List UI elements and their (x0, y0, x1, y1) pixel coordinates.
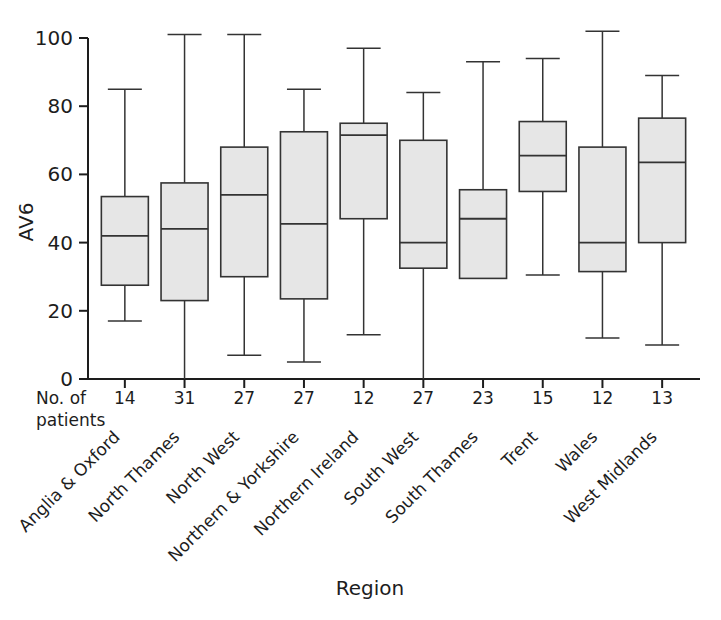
box-plot-item (280, 89, 327, 362)
patient-count-value: 14 (114, 388, 136, 408)
x-axis (88, 379, 700, 388)
box-plot-item (460, 62, 507, 279)
box-plot-item (340, 48, 387, 334)
y-axis-title: AV6 (14, 203, 38, 242)
box-plot-figure: 020406080100AV6No. ofpatients14312727122… (0, 0, 721, 620)
interquartile-box (460, 190, 507, 279)
interquartile-box (161, 183, 208, 301)
chart-canvas: 020406080100AV6No. ofpatients14312727122… (0, 0, 721, 620)
box-plot-item (221, 35, 268, 356)
x-category-label: Wales (552, 427, 602, 477)
x-category-labels: Anglia & OxfordNorth ThamesNorth WestNor… (14, 426, 661, 565)
box-plot-item (579, 31, 626, 338)
patient-count-value: 23 (472, 388, 494, 408)
y-tick-label: 100 (35, 26, 73, 50)
box-plot-item (101, 89, 148, 321)
patient-count-value: 13 (651, 388, 673, 408)
box-series (101, 31, 685, 379)
interquartile-box (221, 147, 268, 277)
box-plot-item (519, 58, 566, 275)
y-tick-label: 20 (48, 299, 73, 323)
interquartile-box (340, 123, 387, 218)
interquartile-box (280, 132, 327, 299)
x-category-label: Trent (497, 426, 542, 471)
patient-count-value: 15 (532, 388, 554, 408)
interquartile-box (101, 197, 148, 286)
interquartile-box (400, 140, 447, 268)
y-axis: 020406080100 (35, 26, 88, 391)
patient-count-row: No. ofpatients14312727122723151213 (36, 388, 673, 430)
box-plot-item (161, 35, 208, 379)
x-axis-title: Region (336, 576, 404, 600)
patient-count-value: 27 (293, 388, 315, 408)
x-category-label: Northern Ireland (250, 427, 363, 540)
y-tick-label: 80 (48, 94, 73, 118)
y-tick-label: 60 (48, 162, 73, 186)
interquartile-box (579, 147, 626, 271)
x-category-label: Anglia & Oxford (14, 427, 123, 536)
no-of-patients-label-line2: patients (36, 410, 105, 430)
interquartile-box (639, 118, 686, 242)
y-tick-label: 40 (48, 231, 73, 255)
patient-count-value: 31 (174, 388, 196, 408)
patient-count-value: 27 (413, 388, 435, 408)
patient-count-value: 12 (592, 388, 614, 408)
patient-count-value: 27 (233, 388, 255, 408)
no-of-patients-label-line1: No. of (36, 388, 87, 408)
patient-count-value: 12 (353, 388, 375, 408)
box-plot-item (400, 93, 447, 379)
box-plot-item (639, 76, 686, 345)
